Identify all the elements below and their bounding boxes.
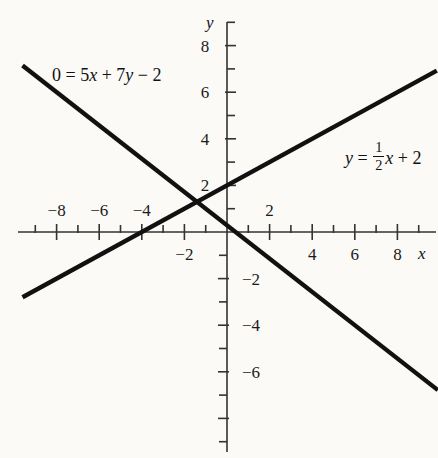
x-tick-label--6: −6 bbox=[84, 202, 114, 219]
x-tick-label-2: 2 bbox=[255, 202, 285, 219]
axes-group bbox=[18, 22, 436, 452]
y-tick-label--2: −2 bbox=[237, 271, 265, 288]
graph-figure: y x −8−6−4−224688642−2−4−6 0 = 5x + 7y −… bbox=[0, 0, 438, 458]
x-tick-label--4: −4 bbox=[127, 202, 157, 219]
fraction-one-half: 12 bbox=[373, 140, 384, 172]
line1-plus: + bbox=[102, 65, 112, 85]
y-tick-label--4: −4 bbox=[237, 317, 265, 334]
y-tick-label-2: 2 bbox=[191, 177, 219, 194]
line2-constant: + 2 bbox=[398, 148, 422, 168]
y-tick-label-6: 6 bbox=[191, 84, 219, 101]
line2-var: y bbox=[345, 148, 353, 168]
y-tick-label-4: 4 bbox=[191, 131, 219, 148]
line1-var1: x bbox=[89, 65, 97, 85]
y-tick-label-8: 8 bbox=[191, 38, 219, 55]
fraction-denominator: 2 bbox=[373, 158, 384, 173]
line1-lhs: 0 = bbox=[52, 65, 76, 85]
line2-equals: = bbox=[358, 148, 368, 168]
x-tick-label-4: 4 bbox=[297, 246, 327, 263]
x-tick-label-6: 6 bbox=[340, 246, 370, 263]
x-tick-label--8: −8 bbox=[42, 202, 72, 219]
line1-coef2: 7 bbox=[116, 65, 125, 85]
line-half-x-plus-2 bbox=[23, 71, 437, 298]
x-tick-label-8: 8 bbox=[382, 246, 412, 263]
annotation-line2: y = 12x + 2 bbox=[345, 140, 422, 172]
y-tick-label--6: −6 bbox=[237, 364, 265, 381]
line1-minus: − 2 bbox=[138, 65, 162, 85]
x-tick-label--2: −2 bbox=[169, 246, 199, 263]
x-axis-label: x bbox=[418, 245, 426, 262]
line1-coef1: 5 bbox=[80, 65, 89, 85]
y-axis-label: y bbox=[206, 14, 214, 31]
fraction-numerator: 1 bbox=[373, 140, 384, 155]
annotation-line1: 0 = 5x + 7y − 2 bbox=[52, 66, 161, 84]
